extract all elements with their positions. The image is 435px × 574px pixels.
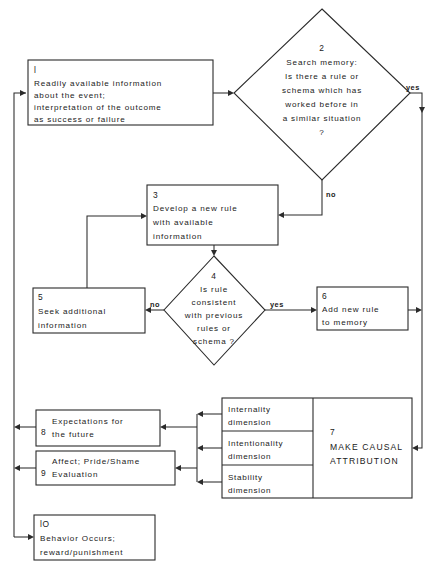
dimension-item-internality[interactable]: Internality dimension <box>228 405 271 427</box>
node-5-seek-additional-information[interactable]: 5 Seek additional information <box>33 288 145 333</box>
node-7-number: 7 <box>330 427 335 437</box>
arrowhead-into-box8 <box>160 424 166 430</box>
node-5-line-1: Seek additional <box>38 307 106 316</box>
arrowhead-into-box9 <box>175 465 181 471</box>
edge-diamond2-no-to-box3 <box>282 180 322 215</box>
node-6-line-1: Add new rule <box>322 305 379 314</box>
node-10-line-2: reward/punishment <box>40 548 123 557</box>
node-10-behavior-occurs[interactable]: lO Behavior Occurs; reward/punishment <box>34 515 155 560</box>
node-10-line-1: Behavior Occurs; <box>40 534 116 543</box>
node-4-is-rule-consistent[interactable]: 4 Is rule consistent with previous rules… <box>164 256 265 365</box>
node-1-line-1: Readily available information <box>34 79 162 88</box>
edge-right-bus-vertical <box>415 110 422 448</box>
arrowhead-into-diamond4 <box>211 250 217 256</box>
node-9-line-2: Evaluation <box>52 470 98 479</box>
node-6-add-new-rule-to-memory[interactable]: 6 Add new rule to memory <box>317 287 408 330</box>
node-2-line-1: Search memory: <box>286 58 357 67</box>
node-4-line-4: rules or <box>197 324 231 333</box>
node-4-line-1: Is rule <box>200 285 228 294</box>
edge-label-no-mid: no <box>150 300 160 309</box>
edge-label-yes-mid: yes <box>270 300 284 309</box>
node-9-number: 9 <box>41 468 46 478</box>
dimension-internality-line-2: dimension <box>228 418 271 427</box>
node-2-line-5: a similar situation <box>283 114 362 123</box>
arrowhead-loop-into-box3 <box>141 213 147 219</box>
node-9-line-1: Affect; Pride/Shame <box>52 457 140 466</box>
node-1-line-3: interpretation of the outcome <box>34 103 162 112</box>
node-4-line-5: schema ? <box>193 337 235 346</box>
node-9-affect-pride-shame-evaluation[interactable]: 9 Affect; Pride/Shame Evaluation <box>36 451 175 485</box>
arrowhead-into-box10 <box>28 534 34 540</box>
node-2-line-6: ? <box>319 128 324 137</box>
arrowhead-into-box7 <box>412 445 418 451</box>
node-8-number: 8 <box>41 427 46 437</box>
arrowhead-box6-into-bus <box>416 307 422 313</box>
arrowhead-into-box1 <box>20 90 26 96</box>
edge-label-no-top: no <box>326 190 336 199</box>
arrowhead-no-into-box3 <box>278 212 284 218</box>
node-1-readily-available-information[interactable]: l Readily available information about th… <box>28 60 213 125</box>
node-6-line-2: to memory <box>322 318 368 327</box>
node-8-line-2: the future <box>52 430 95 439</box>
node-2-line-3: schema which has <box>282 86 362 95</box>
node-5-line-2: information <box>38 321 87 330</box>
node-2-search-memory[interactable]: 2 Search memory: Is there a rule or sche… <box>234 9 410 180</box>
arrowhead-yes-into-box6 <box>311 307 317 313</box>
node-7-line-2: ATTRIBUTION <box>330 456 399 466</box>
node-3-line-2: with available <box>152 218 214 227</box>
node-10-number: lO <box>40 519 50 529</box>
node-3-line-1: Develop a new rule <box>153 204 238 213</box>
dimension-item-intentionality[interactable]: Intentionality dimension <box>228 439 283 461</box>
arrowhead-internality <box>197 411 203 417</box>
node-8-box[interactable] <box>36 410 160 446</box>
node-1-number: l <box>34 65 36 75</box>
dimension-intentionality-line-1: Intentionality <box>228 439 283 448</box>
dimension-item-stability[interactable]: Stability dimension <box>228 473 271 495</box>
node-4-number: 4 <box>211 271 216 281</box>
node-8-expectations-for-the-future[interactable]: 8 Expectations for the future <box>36 410 160 446</box>
node-7-line-1: MAKE CAUSAL <box>330 442 403 452</box>
node-5-number: 5 <box>38 292 43 302</box>
flowchart-canvas: l Readily available information about th… <box>0 0 435 574</box>
dimension-internality-line-1: Internality <box>228 405 271 414</box>
node-2-line-2: Is there a rule or <box>285 72 359 81</box>
node-3-number: 3 <box>153 190 158 200</box>
arrowhead-box9-into-bus <box>14 465 20 471</box>
arrowhead-stability <box>197 479 203 485</box>
arrowhead-into-diamond2 <box>228 90 234 96</box>
edge-label-yes-top: yes <box>406 83 420 92</box>
node-3-line-3: information <box>153 232 202 241</box>
dimension-stability-line-1: Stability <box>228 473 263 482</box>
node-1-line-4: as success or failure <box>34 115 126 124</box>
node-4-line-2: consistent <box>192 298 237 307</box>
dimension-list: Internality dimension Intentionality dim… <box>222 405 313 495</box>
arrowhead-box8-into-bus <box>14 424 20 430</box>
flowchart-diagram: l Readily available information about th… <box>0 0 435 574</box>
arrowhead-intentionality <box>197 445 203 451</box>
node-8-line-1: Expectations for <box>52 417 124 426</box>
node-4-line-3: with previous <box>184 311 243 320</box>
node-2-line-4: worked before in <box>284 100 358 109</box>
edge-box5-to-box3-loop <box>87 216 143 288</box>
node-1-line-2: about the event; <box>34 91 106 100</box>
dimension-stability-line-2: dimension <box>228 486 271 495</box>
node-2-number: 2 <box>319 43 324 53</box>
node-6-number: 6 <box>322 291 327 301</box>
dimension-intentionality-line-2: dimension <box>228 452 271 461</box>
node-3-develop-new-rule[interactable]: 3 Develop a new rule with available info… <box>147 185 278 245</box>
